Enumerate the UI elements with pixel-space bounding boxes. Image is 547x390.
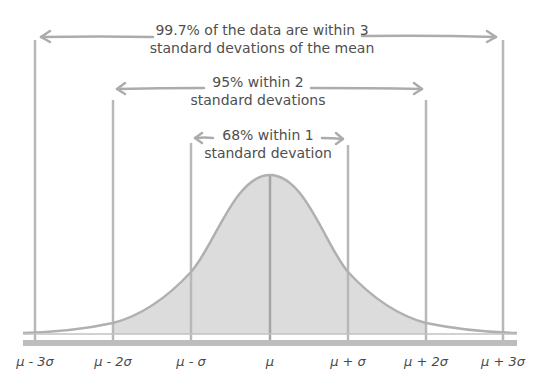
axis-label-mean: μ [266, 354, 274, 369]
diagram-canvas [0, 0, 547, 390]
axis-label-minus-1-sigma: μ - σ [176, 354, 205, 369]
axis-label-minus-3-sigma: μ - 3σ [16, 354, 54, 369]
baseline-axis [23, 340, 517, 346]
axis-label-plus-1-sigma: μ + σ [330, 354, 366, 369]
normal-distribution-diagram: 99.7% of the data are within 3 standard … [0, 0, 547, 390]
annotation-one-sigma-line2: standard devation [204, 144, 332, 162]
annotation-one-sigma: 68% within 1 standard devation [204, 126, 332, 162]
annotation-one-sigma-line1: 68% within 1 [204, 126, 332, 144]
annotation-two-sigma-line2: standard devations [190, 91, 325, 109]
annotation-three-sigma: 99.7% of the data are within 3 standard … [150, 21, 375, 57]
axis-label-plus-3-sigma: μ + 3σ [481, 354, 525, 369]
axis-label-minus-2-sigma: μ - 2σ [94, 354, 132, 369]
annotation-two-sigma-line1: 95% within 2 [190, 73, 325, 91]
annotation-three-sigma-line1: 99.7% of the data are within 3 [150, 21, 375, 39]
annotation-two-sigma: 95% within 2 standard devations [190, 73, 325, 109]
annotation-three-sigma-line2: standard devations of the mean [150, 39, 375, 57]
axis-label-plus-2-sigma: μ + 2σ [404, 354, 448, 369]
